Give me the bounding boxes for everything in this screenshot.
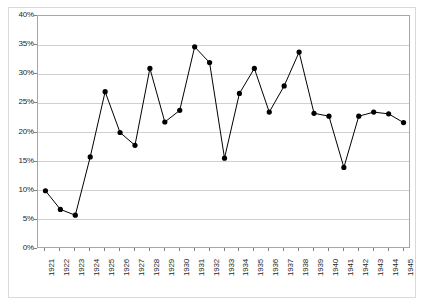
x-axis-tick-mark bbox=[179, 248, 180, 251]
x-axis-tick-label: 1945 bbox=[407, 259, 415, 276]
x-axis-tick-label: 1925 bbox=[108, 259, 116, 276]
x-axis-tick-mark bbox=[328, 248, 329, 251]
x-axis: 1921192219231924192519261927192819291930… bbox=[0, 0, 425, 305]
x-axis-tick-mark bbox=[59, 248, 60, 251]
x-axis-tick-mark bbox=[238, 248, 239, 251]
x-axis-tick-label: 1938 bbox=[302, 259, 310, 276]
x-axis-tick-label: 1931 bbox=[198, 259, 206, 276]
x-axis-tick-mark bbox=[74, 248, 75, 251]
x-axis-tick-mark bbox=[268, 248, 269, 251]
x-axis-tick-mark bbox=[164, 248, 165, 251]
x-axis-tick-label: 1926 bbox=[123, 259, 131, 276]
x-axis-tick-label: 1942 bbox=[362, 259, 370, 276]
x-axis-tick-label: 1940 bbox=[332, 259, 340, 276]
x-axis-tick-label: 1936 bbox=[272, 259, 280, 276]
x-axis-tick-label: 1922 bbox=[63, 259, 71, 276]
x-axis-tick-label: 1927 bbox=[138, 259, 146, 276]
x-axis-tick-label: 1929 bbox=[168, 259, 176, 276]
x-axis-tick-label: 1941 bbox=[347, 259, 355, 276]
x-axis-tick-label: 1939 bbox=[317, 259, 325, 276]
x-axis-tick-label: 1930 bbox=[183, 259, 191, 276]
x-axis-tick-mark bbox=[298, 248, 299, 251]
x-axis-tick-mark bbox=[134, 248, 135, 251]
x-axis-tick-label: 1935 bbox=[257, 259, 265, 276]
x-axis-tick-mark bbox=[149, 248, 150, 251]
x-axis-tick-label: 1928 bbox=[153, 259, 161, 276]
x-axis-tick-mark bbox=[283, 248, 284, 251]
x-axis-tick-mark bbox=[343, 248, 344, 251]
x-axis-tick-mark bbox=[44, 248, 45, 251]
x-axis-tick-label: 1944 bbox=[392, 259, 400, 276]
x-axis-tick-label: 1943 bbox=[377, 259, 385, 276]
x-axis-tick-mark bbox=[209, 248, 210, 251]
x-axis-tick-mark bbox=[313, 248, 314, 251]
x-axis-tick-label: 1934 bbox=[242, 259, 250, 276]
x-axis-tick-mark bbox=[119, 248, 120, 251]
x-axis-tick-mark bbox=[104, 248, 105, 251]
x-axis-tick-label: 1933 bbox=[228, 259, 236, 276]
x-axis-tick-mark bbox=[388, 248, 389, 251]
x-axis-tick-label: 1924 bbox=[93, 259, 101, 276]
x-axis-tick-label: 1937 bbox=[287, 259, 295, 276]
chart-container: 0%5%10%15%20%25%30%35%40% 19211922192319… bbox=[0, 0, 425, 305]
x-axis-tick-label: 1932 bbox=[213, 259, 221, 276]
x-axis-tick-mark bbox=[224, 248, 225, 251]
x-axis-tick-mark bbox=[89, 248, 90, 251]
x-axis-tick-mark bbox=[358, 248, 359, 251]
x-axis-tick-label: 1921 bbox=[48, 259, 56, 276]
x-axis-tick-label: 1923 bbox=[78, 259, 86, 276]
x-axis-tick-mark bbox=[194, 248, 195, 251]
x-axis-tick-mark bbox=[403, 248, 404, 251]
x-axis-tick-mark bbox=[373, 248, 374, 251]
x-axis-tick-mark bbox=[253, 248, 254, 251]
